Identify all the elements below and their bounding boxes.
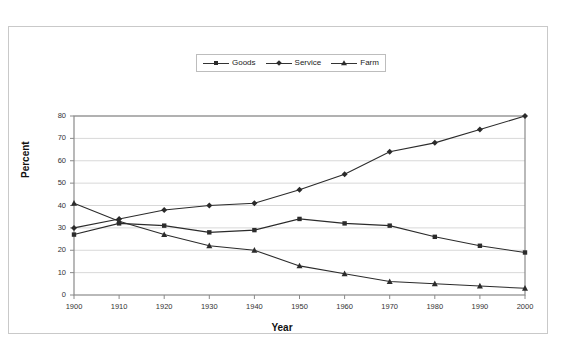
x-tick-label: 1910 bbox=[102, 302, 136, 311]
y-tick-label: 50 bbox=[44, 178, 66, 187]
y-tick-label: 30 bbox=[44, 223, 66, 232]
legend-line-service bbox=[266, 63, 292, 64]
y-tick-label: 60 bbox=[44, 156, 66, 165]
legend-label-goods: Goods bbox=[232, 59, 256, 67]
x-tick-label: 1950 bbox=[283, 302, 317, 311]
legend-line-goods bbox=[203, 63, 229, 64]
diamond-marker-icon bbox=[276, 60, 282, 66]
legend-label-service: Service bbox=[295, 59, 322, 67]
y-axis-title: Percent bbox=[20, 141, 31, 178]
legend-item-farm: Farm bbox=[331, 59, 379, 67]
x-tick-label: 1960 bbox=[328, 302, 362, 311]
legend-item-service: Service bbox=[266, 59, 322, 67]
triangle-marker-icon bbox=[341, 60, 347, 65]
x-tick-label: 1920 bbox=[147, 302, 181, 311]
x-tick-label: 2000 bbox=[508, 302, 542, 311]
y-tick-label: 80 bbox=[44, 111, 66, 120]
square-marker-icon bbox=[214, 61, 218, 65]
y-tick-label: 20 bbox=[44, 245, 66, 254]
x-tick-label: 1980 bbox=[418, 302, 452, 311]
chart-legend: Goods Service Farm bbox=[196, 54, 386, 72]
legend-label-farm: Farm bbox=[360, 59, 379, 67]
y-tick-label: 0 bbox=[44, 290, 66, 299]
y-tick-label: 70 bbox=[44, 133, 66, 142]
x-tick-label: 1990 bbox=[463, 302, 497, 311]
x-axis-title: Year bbox=[0, 322, 564, 333]
y-tick-label: 40 bbox=[44, 201, 66, 210]
chart-frame bbox=[8, 26, 548, 334]
x-tick-label: 1900 bbox=[57, 302, 91, 311]
x-tick-label: 1930 bbox=[192, 302, 226, 311]
x-tick-label: 1970 bbox=[373, 302, 407, 311]
legend-item-goods: Goods bbox=[203, 59, 256, 67]
x-tick-label: 1940 bbox=[237, 302, 271, 311]
legend-line-farm bbox=[331, 63, 357, 64]
y-tick-label: 10 bbox=[44, 268, 66, 277]
